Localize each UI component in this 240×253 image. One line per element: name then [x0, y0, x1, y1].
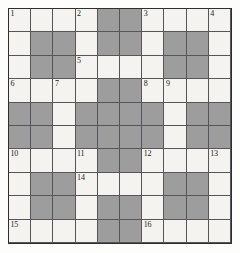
grid-cell-open[interactable]	[98, 173, 120, 196]
grid-cell-blocked	[164, 173, 186, 196]
grid-cell-open[interactable]	[31, 9, 53, 32]
grid-cell-open[interactable]	[31, 149, 53, 172]
grid-cell-open[interactable]: 14	[76, 173, 98, 196]
cell-number: 5	[77, 56, 81, 66]
grid-cell-blocked	[187, 196, 209, 219]
grid-cell-open[interactable]	[187, 9, 209, 32]
grid-cell-open[interactable]: 13	[209, 149, 231, 172]
grid-cell-open[interactable]	[164, 126, 186, 149]
grid-cell-open[interactable]	[120, 173, 142, 196]
crossword-page: 12345678910111213141516	[0, 0, 240, 253]
grid-cell-open[interactable]: 11	[76, 149, 98, 172]
grid-cell-blocked	[164, 32, 186, 55]
grid-cell-open[interactable]: 7	[53, 79, 75, 102]
grid-cell-blocked	[120, 9, 142, 32]
grid-cell-blocked	[164, 56, 186, 79]
grid-cell-open[interactable]	[187, 220, 209, 243]
grid-cell-blocked	[31, 56, 53, 79]
grid-cell-open[interactable]	[53, 103, 75, 126]
grid-cell-open[interactable]	[164, 149, 186, 172]
grid-cell-open[interactable]	[76, 196, 98, 219]
grid-cell-open[interactable]	[76, 79, 98, 102]
grid-cell-blocked	[120, 103, 142, 126]
grid-cell-open[interactable]	[164, 9, 186, 32]
grid-cell-blocked	[142, 126, 164, 149]
grid-cell-open[interactable]	[53, 126, 75, 149]
grid-cell-open[interactable]: 6	[9, 79, 31, 102]
grid-cell-open[interactable]	[209, 79, 231, 102]
grid-cell-blocked	[120, 32, 142, 55]
grid-cell-blocked	[53, 56, 75, 79]
grid-cell-open[interactable]	[9, 32, 31, 55]
grid-cell-open[interactable]	[209, 32, 231, 55]
grid-cell-blocked	[9, 126, 31, 149]
grid-cell-open[interactable]	[209, 220, 231, 243]
cell-number: 9	[166, 79, 170, 89]
grid-cell-open[interactable]	[76, 32, 98, 55]
grid-cell-open[interactable]	[142, 56, 164, 79]
grid-cell-open[interactable]	[31, 220, 53, 243]
cell-number: 6	[11, 79, 15, 89]
crossword-grid[interactable]: 12345678910111213141516	[8, 8, 232, 244]
grid-cell-open[interactable]	[53, 149, 75, 172]
grid-cell-open[interactable]	[142, 32, 164, 55]
grid-cell-open[interactable]	[142, 196, 164, 219]
grid-cell-blocked	[31, 126, 53, 149]
grid-cell-blocked	[120, 126, 142, 149]
grid-cell-blocked	[98, 149, 120, 172]
grid-cell-open[interactable]: 4	[209, 9, 231, 32]
grid-cell-open[interactable]	[98, 56, 120, 79]
cell-number: 10	[11, 149, 19, 159]
grid-cell-open[interactable]: 1	[9, 9, 31, 32]
grid-cell-blocked	[120, 196, 142, 219]
grid-cell-open[interactable]	[209, 56, 231, 79]
grid-cell-open[interactable]	[53, 220, 75, 243]
grid-cell-open[interactable]	[120, 56, 142, 79]
grid-cell-blocked	[98, 79, 120, 102]
grid-cell-blocked	[187, 103, 209, 126]
grid-cell-open[interactable]	[142, 173, 164, 196]
grid-cell-blocked	[98, 103, 120, 126]
grid-cell-open[interactable]	[187, 149, 209, 172]
grid-cell-open[interactable]	[187, 79, 209, 102]
grid-cell-open[interactable]: 3	[142, 9, 164, 32]
cell-number: 15	[11, 220, 19, 230]
grid-cell-open[interactable]: 15	[9, 220, 31, 243]
grid-cell-open[interactable]	[31, 79, 53, 102]
grid-cell-open[interactable]	[209, 173, 231, 196]
grid-cell-blocked	[142, 103, 164, 126]
grid-cell-blocked	[31, 103, 53, 126]
grid-cell-blocked	[31, 32, 53, 55]
grid-cell-open[interactable]: 9	[164, 79, 186, 102]
grid-cell-open[interactable]	[9, 56, 31, 79]
grid-cell-blocked	[209, 103, 231, 126]
grid-cell-blocked	[120, 149, 142, 172]
grid-cell-open[interactable]: 10	[9, 149, 31, 172]
cell-number: 13	[210, 149, 218, 159]
grid-cell-blocked	[187, 56, 209, 79]
grid-cell-open[interactable]: 8	[142, 79, 164, 102]
grid-cell-blocked	[187, 32, 209, 55]
grid-cell-open[interactable]: 12	[142, 149, 164, 172]
grid-cell-open[interactable]	[164, 103, 186, 126]
cell-number: 16	[144, 220, 152, 230]
cell-number: 14	[77, 173, 85, 183]
grid-cell-open[interactable]	[9, 173, 31, 196]
grid-cell-blocked	[53, 32, 75, 55]
grid-cell-open[interactable]	[164, 220, 186, 243]
grid-cell-blocked	[98, 9, 120, 32]
grid-cell-blocked	[9, 103, 31, 126]
grid-cell-blocked	[31, 173, 53, 196]
grid-cell-open[interactable]: 5	[76, 56, 98, 79]
grid-cell-open[interactable]: 2	[76, 9, 98, 32]
grid-cell-open[interactable]	[209, 196, 231, 219]
grid-cell-blocked	[120, 79, 142, 102]
grid-cell-blocked	[98, 32, 120, 55]
grid-cell-open[interactable]	[9, 196, 31, 219]
grid-cell-open[interactable]	[53, 9, 75, 32]
grid-cell-blocked	[98, 126, 120, 149]
grid-cell-blocked	[164, 196, 186, 219]
grid-cell-open[interactable]	[76, 220, 98, 243]
cell-number: 7	[55, 79, 59, 89]
grid-cell-open[interactable]: 16	[142, 220, 164, 243]
